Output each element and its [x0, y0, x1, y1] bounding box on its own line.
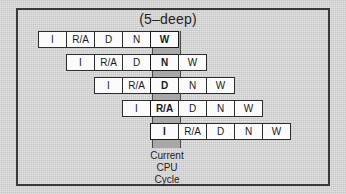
- pipeline-stage-cell: N: [178, 77, 207, 94]
- pipeline-stage-cell: W: [262, 123, 291, 140]
- pipeline-stage-cell: R/A: [66, 31, 95, 48]
- pipeline-stage-cell: D: [206, 123, 235, 140]
- pipeline-stage-cell: W: [206, 77, 235, 94]
- pipeline-row: IR/ADNW: [122, 100, 263, 117]
- pipeline-stage-cell-current: I: [150, 123, 179, 140]
- pipeline-row: IR/ADNW: [38, 31, 179, 48]
- pipeline-stage-cell: R/A: [94, 54, 123, 71]
- pipeline-stage-cell: D: [94, 31, 123, 48]
- pipeline-stage-cell: I: [66, 54, 95, 71]
- diagram-title: (5–deep): [0, 11, 346, 27]
- diagram-title-text: (5–deep): [139, 11, 197, 27]
- pipeline-stage-cell: W: [178, 54, 207, 71]
- current-cycle-caption: Current CPU Cycle: [108, 150, 226, 186]
- pipeline-stage-cell: N: [234, 123, 263, 140]
- caption-line-1: Current: [108, 150, 226, 162]
- pipeline-stage-cell-current: R/A: [150, 100, 179, 117]
- caption-line-3: Cycle: [108, 174, 226, 186]
- pipeline-stage-cell: W: [234, 100, 263, 117]
- caption-line-2: CPU: [108, 162, 226, 174]
- pipeline-stage-cell: D: [122, 54, 151, 71]
- pipeline-stage-cell: N: [206, 100, 235, 117]
- pipeline-stage-cell-current: W: [150, 31, 179, 48]
- pipeline-stage-cell: D: [178, 100, 207, 117]
- pipeline-stage-cell: R/A: [122, 77, 151, 94]
- pipeline-stage-cell-current: D: [150, 77, 179, 94]
- pipeline-stage-cell-current: N: [150, 54, 179, 71]
- pipeline-stage-cell: I: [122, 100, 151, 117]
- pipeline-row: IR/ADNW: [150, 123, 291, 140]
- pipeline-stage-cell: I: [94, 77, 123, 94]
- pipeline-stage-cell: R/A: [178, 123, 207, 140]
- pipeline-stage-cell: I: [38, 31, 67, 48]
- pipeline-diagram-screenshot: (5–deep) IR/ADNWIR/ADNWIR/ADNWIR/ADNWIR/…: [0, 0, 346, 194]
- pipeline-row: IR/ADNW: [66, 54, 207, 71]
- pipeline-row: IR/ADNW: [94, 77, 235, 94]
- pipeline-stage-cell: N: [122, 31, 151, 48]
